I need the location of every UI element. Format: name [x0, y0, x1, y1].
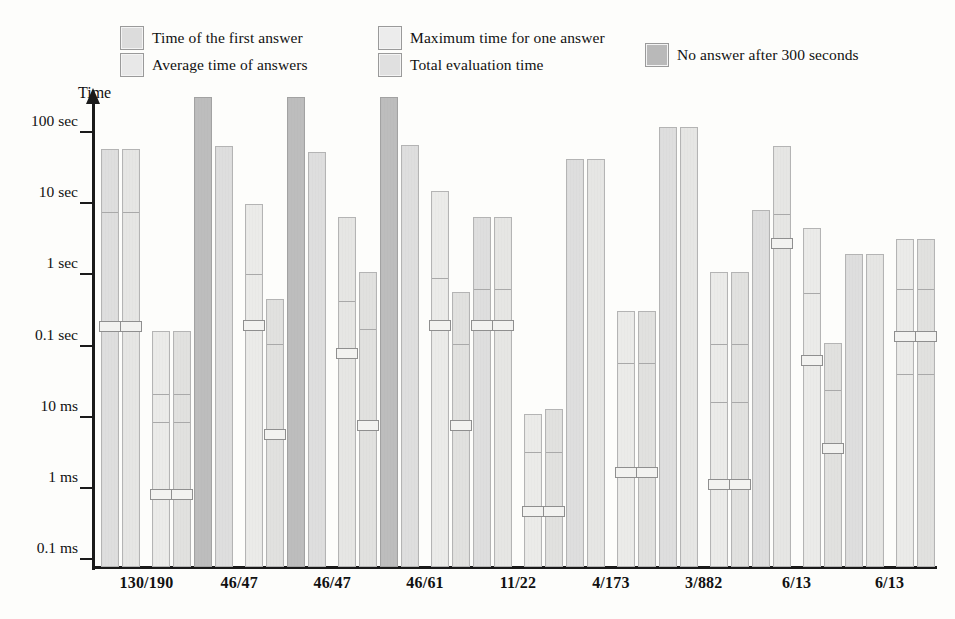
bar-marker-max [429, 320, 451, 331]
x-tick-label: 46/47 [193, 574, 286, 592]
bar-first [215, 146, 233, 567]
plot-area: Time 100 sec10 sec1 sec0.1 sec10 ms1 ms0… [0, 0, 955, 619]
bar-segment-divider [453, 344, 469, 345]
y-tick-mark [80, 131, 94, 133]
bar-noans [287, 97, 305, 567]
bar-segment-divider [774, 214, 790, 215]
x-tick-label: 3/882 [657, 574, 750, 592]
bar-texture [804, 229, 820, 566]
bar-texture [474, 218, 490, 566]
bar-texture [825, 344, 841, 566]
bar-marker-total [171, 489, 193, 500]
bar-max [896, 239, 914, 567]
bar-marker-total [822, 443, 844, 454]
x-tick-label: 46/47 [286, 574, 379, 592]
bar-segment-divider [897, 374, 913, 375]
bar-segment-divider [246, 274, 262, 275]
bar-segment-divider [102, 212, 118, 213]
bar-first [566, 159, 584, 567]
x-tick-label: 4/173 [564, 574, 657, 592]
bar-avg [866, 254, 884, 567]
y-tick-mark [80, 558, 94, 560]
bar-marker-first [471, 320, 493, 331]
bar-texture [846, 255, 862, 566]
bar-texture [753, 211, 769, 566]
bar-marker-first [99, 321, 121, 332]
bar-max [710, 272, 728, 567]
bar-marker-total [915, 331, 937, 342]
bar-segment-divider [546, 452, 562, 453]
bar-marker-avg [336, 348, 358, 359]
bar-first [845, 254, 863, 567]
bar-texture [639, 312, 655, 566]
bar-marker-total [729, 479, 751, 490]
bar-segment-divider [432, 278, 448, 279]
y-tick-label-text: 10 ms [41, 397, 78, 415]
bar-segment-divider [360, 329, 376, 330]
bar-marker-max [894, 331, 916, 342]
bar-texture [381, 98, 397, 566]
bar-noans [194, 97, 212, 567]
bar-avg [494, 217, 512, 567]
bar-marker-max [522, 506, 544, 517]
bar-texture [546, 410, 562, 566]
bar-max [617, 311, 635, 567]
bar-texture [174, 332, 190, 566]
bar-segment-divider [267, 344, 283, 345]
bar-segment-divider [495, 289, 511, 290]
bar-texture [339, 218, 355, 566]
x-tick-label: 6/13 [750, 574, 843, 592]
chart-root: Time of the first answer Average time of… [0, 0, 955, 619]
bar-texture [774, 147, 790, 566]
y-tick-mark [80, 273, 94, 275]
y-tick-label-text: 0.1 ms [37, 539, 78, 557]
bar-segment-divider [618, 363, 634, 364]
bar-texture [153, 332, 169, 566]
bar-total [638, 311, 656, 567]
bar-texture [867, 255, 883, 566]
bar-texture [618, 312, 634, 566]
bar-total [731, 272, 749, 567]
bar-marker-total [636, 467, 658, 478]
y-axis-line [92, 100, 95, 570]
bar-total [545, 409, 563, 567]
bar-marker-total [543, 506, 565, 517]
bar-texture [288, 98, 304, 566]
bar-segment-divider [639, 363, 655, 364]
bar-texture [681, 128, 697, 566]
bar-marker-avg [492, 320, 514, 331]
bar-max [431, 191, 449, 567]
bar-segment-divider [525, 452, 541, 453]
y-tick-label-text: 100 sec [31, 112, 78, 130]
bar-max [803, 228, 821, 567]
y-tick-mark [80, 487, 94, 489]
bar-segment-divider [153, 422, 169, 423]
bar-first [401, 145, 419, 567]
y-tick-mark [80, 416, 94, 418]
bar-texture [711, 273, 727, 566]
bar-avg [338, 217, 356, 567]
bar-segment-divider [918, 374, 934, 375]
bar-first [752, 210, 770, 567]
bar-avg [680, 127, 698, 567]
bar-max [152, 331, 170, 567]
y-tick-label-text: 10 sec [39, 183, 78, 201]
y-tick-mark [80, 202, 94, 204]
x-tick-label: 130/190 [100, 574, 193, 592]
bar-segment-divider [897, 289, 913, 290]
bar-noans [380, 97, 398, 567]
bar-texture [216, 147, 232, 566]
bar-segment-divider [711, 402, 727, 403]
bar-segment-divider [174, 394, 190, 395]
bar-texture [246, 205, 262, 566]
bar-segment-divider [339, 301, 355, 302]
bar-texture [309, 153, 325, 566]
bar-marker-max [150, 489, 172, 500]
bar-segment-divider [474, 289, 490, 290]
bar-segment-divider [732, 344, 748, 345]
bar-first [308, 152, 326, 567]
bar-marker-max [801, 355, 823, 366]
bar-segment-divider [153, 394, 169, 395]
bar-marker-avg [771, 238, 793, 249]
bar-total [824, 343, 842, 567]
